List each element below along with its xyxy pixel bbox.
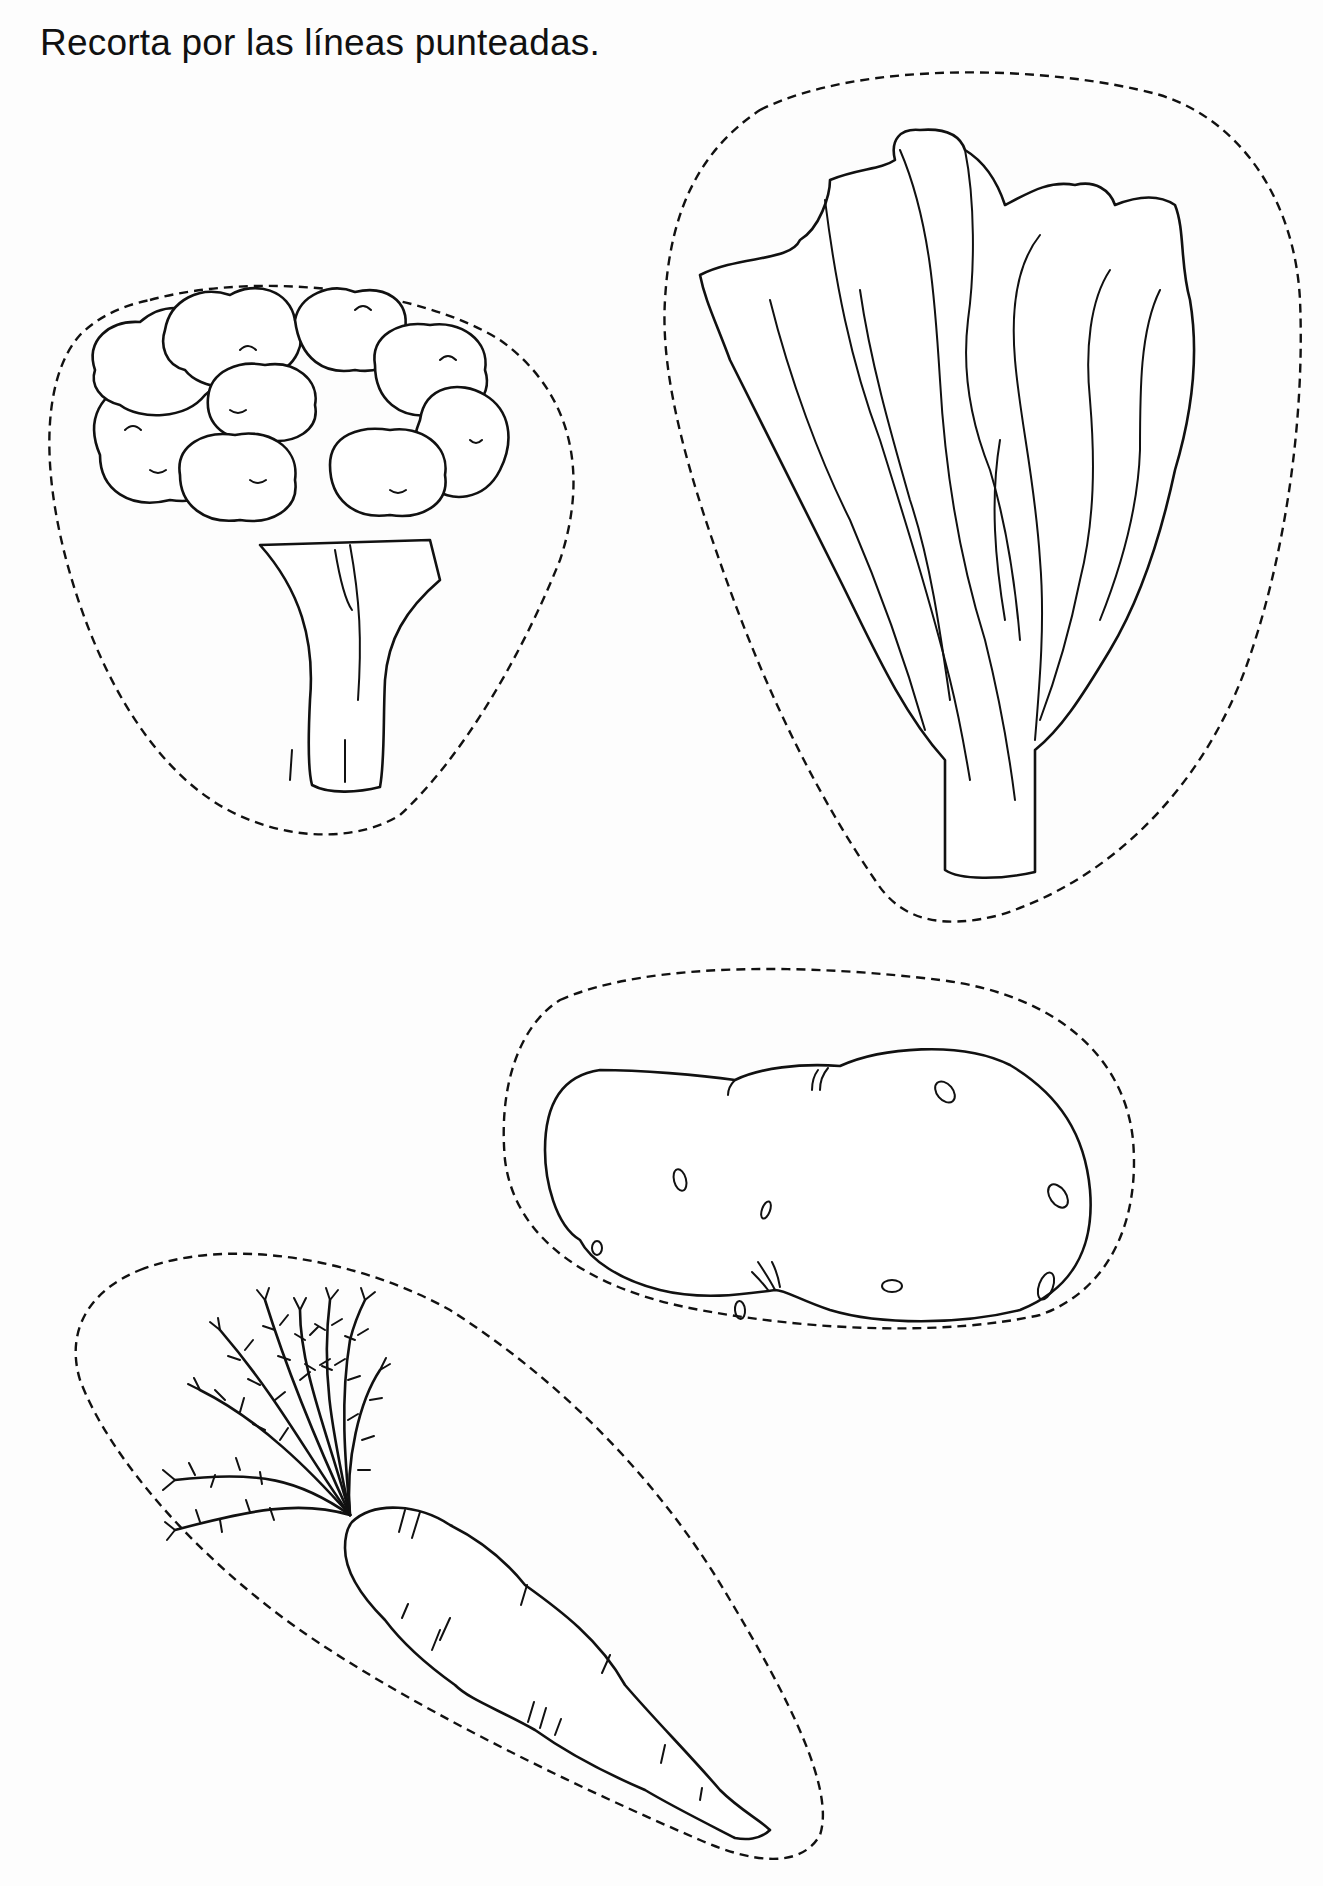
carrot-root-icon — [345, 1508, 770, 1839]
worksheet-page: Recorta por las líneas punteadas. — [0, 0, 1323, 1886]
broccoli-stalk-icon — [260, 540, 440, 792]
potato-cutout — [504, 969, 1134, 1328]
potato-body-icon — [545, 1049, 1091, 1321]
cutout-illustrations — [0, 0, 1323, 1886]
carrot-cutout — [76, 1254, 823, 1859]
carrot-leaves-icon — [163, 1288, 390, 1540]
lettuce-cutout — [664, 72, 1300, 921]
lettuce-head-icon — [700, 130, 1194, 878]
broccoli-cutout — [49, 286, 573, 835]
